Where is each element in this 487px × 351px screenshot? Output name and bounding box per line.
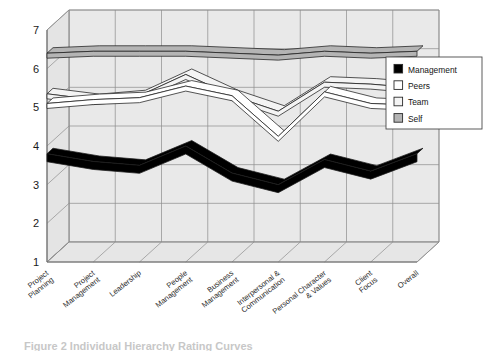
legend-item-team-label: Team: [408, 97, 429, 107]
legend-item-management-label: Management: [408, 65, 458, 75]
x-tick-label: Leadership: [108, 268, 143, 298]
legend-item-management-swatch: [394, 64, 403, 73]
y-tick-label: 7: [33, 24, 39, 36]
svg-text:Overall: Overall: [396, 268, 421, 290]
y-tick-label: 1: [33, 256, 39, 268]
x-tick-label: Overall: [396, 268, 421, 290]
legend-item-self-label: Self: [408, 114, 423, 124]
x-tick-label: BusinessManagement: [195, 268, 241, 310]
legend-item-peers-label: Peers: [408, 81, 430, 91]
y-tick-label: 5: [33, 101, 39, 113]
x-tick-label: ProjectPlanning: [21, 268, 56, 300]
svg-text:Leadership: Leadership: [108, 268, 143, 298]
legend-item-team-swatch: [394, 97, 403, 106]
y-tick-label: 4: [33, 140, 39, 152]
x-tick-label: ClientFocus: [352, 268, 380, 295]
x-tick-label: ProjectManagement: [56, 268, 102, 310]
y-axis-ticks: 7654321: [33, 24, 39, 268]
figure-caption-text: Figure 2 Individual Hierarchy Rating Cur…: [24, 341, 464, 351]
legend-item-peers-swatch: [394, 81, 403, 90]
y-tick-label: 2: [33, 217, 39, 229]
chart-legend: ManagementPeersTeamSelf: [386, 57, 482, 129]
legend-item-self-swatch: [394, 114, 403, 123]
y-tick-label: 6: [33, 63, 39, 75]
x-axis-ticks: ProjectPlanningProjectManagementLeadersh…: [21, 268, 420, 323]
x-tick-label: PeopleManagement: [149, 268, 195, 310]
y-tick-label: 3: [33, 179, 39, 191]
figure-caption: Figure 2 Individual Hierarchy Rating Cur…: [24, 341, 464, 351]
